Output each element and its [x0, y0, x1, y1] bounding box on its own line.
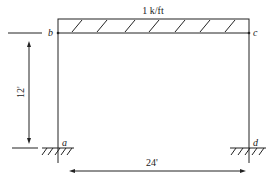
load-label: 1 k/ft	[142, 5, 164, 16]
node-label-c: c	[253, 27, 258, 38]
fixed-support-d	[230, 148, 266, 155]
portal-frame-diagram: 1 k/ft b c a d 12' 24'	[0, 0, 272, 187]
height-dimension-label: 12'	[15, 86, 26, 98]
node-label-a: a	[62, 137, 67, 148]
load-hatching	[72, 20, 235, 32]
node-label-d: d	[253, 137, 259, 148]
width-dimension-label: 24'	[146, 157, 158, 168]
dimension-arrowheads	[27, 41, 246, 173]
node-label-b: b	[48, 27, 53, 38]
